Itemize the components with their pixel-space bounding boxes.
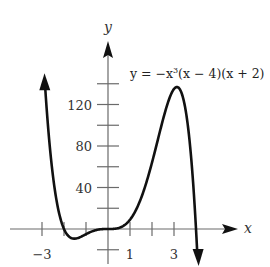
y-axis-label: y <box>103 19 113 35</box>
y-tick-label: 40 <box>75 181 92 196</box>
chart: −313 4080120 x y y = −x3(x − 4)(x + 2) <box>0 0 270 267</box>
y-tick-label: 120 <box>67 98 92 113</box>
x-tick-label: 3 <box>170 247 178 262</box>
equation-part-2: (x − 4)(x + 2) <box>178 66 264 81</box>
equation-annotation: y = −x3(x − 4)(x + 2) <box>129 66 264 81</box>
y-tick-label: 80 <box>75 139 92 154</box>
equation-part-1: y = −x <box>129 66 173 81</box>
x-tick-label: −3 <box>32 247 51 262</box>
x-axis-label: x <box>244 220 252 236</box>
curve-arrowhead-right <box>193 249 204 266</box>
curve-arrowhead-left <box>39 73 50 90</box>
y-tick-labels: 4080120 <box>67 98 92 196</box>
x-tick-label: 1 <box>126 247 134 262</box>
